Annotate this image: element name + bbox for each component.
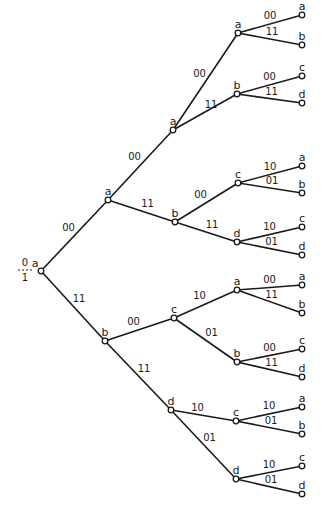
edge-label: 10 xyxy=(263,221,276,232)
tree-edge xyxy=(108,130,173,200)
tree-node xyxy=(105,197,111,203)
state-label: d xyxy=(234,227,241,240)
code-tree-diagram: 0011001100110011001110011001001100111001… xyxy=(0,0,324,526)
tree-node xyxy=(234,359,240,365)
state-label: b xyxy=(299,298,306,311)
tree-node xyxy=(299,346,305,352)
tree-node xyxy=(299,463,305,469)
tree-node xyxy=(299,190,305,196)
edge-label: 10 xyxy=(193,290,206,301)
state-label: d xyxy=(299,88,306,101)
edge-label: 11 xyxy=(265,357,278,368)
state-label: a xyxy=(299,270,306,283)
state-label: b xyxy=(234,79,241,92)
edge-label: 00 xyxy=(62,222,75,233)
edge-label: 11 xyxy=(73,293,86,304)
state-label: b xyxy=(299,178,306,191)
state-label: c xyxy=(233,406,239,419)
tree-node xyxy=(234,239,240,245)
state-label: c xyxy=(299,212,305,225)
tree-node xyxy=(299,100,305,106)
state-label: c xyxy=(299,61,305,74)
state-label: a xyxy=(235,18,242,31)
edge-label: 01 xyxy=(203,432,216,443)
state-label: a xyxy=(299,392,306,405)
edge-label: 01 xyxy=(205,327,218,338)
tree-node xyxy=(233,476,239,482)
edge-label: 00 xyxy=(263,274,276,285)
edge-label: 01 xyxy=(265,474,278,485)
tree-node xyxy=(299,310,305,316)
state-label: d xyxy=(299,362,306,375)
edge-label: 00 xyxy=(263,71,276,82)
edge-label: 11 xyxy=(205,99,218,110)
state-label: a xyxy=(299,0,306,13)
edge-label: 00 xyxy=(263,342,276,353)
tree-node xyxy=(299,282,305,288)
state-label: a xyxy=(234,275,241,288)
state-label: d xyxy=(168,395,175,408)
edge-label: 01 xyxy=(265,415,278,426)
tree-node xyxy=(299,163,305,169)
edge-label: 00 xyxy=(264,10,277,21)
tree-node xyxy=(171,315,177,321)
tree-node xyxy=(235,180,241,186)
state-label: a xyxy=(299,151,306,164)
fraction-numerator: 0 xyxy=(22,257,28,268)
initial-state-fraction: 0 1 xyxy=(18,257,32,283)
edge-label: 00 xyxy=(194,189,207,200)
state-label: b xyxy=(102,326,109,339)
edge-label: 00 xyxy=(128,151,141,162)
tree-node xyxy=(168,407,174,413)
tree-edge xyxy=(174,318,237,362)
tree-node xyxy=(299,73,305,79)
edge-label: 10 xyxy=(263,400,276,411)
state-label: d xyxy=(299,240,306,253)
tree-node xyxy=(102,338,108,344)
state-label: b xyxy=(172,207,179,220)
tree-node xyxy=(299,252,305,258)
edge-label: 00 xyxy=(193,68,206,79)
state-label: a xyxy=(170,115,177,128)
tree-node xyxy=(234,91,240,97)
tree-node xyxy=(299,374,305,380)
tree-edge xyxy=(171,410,236,479)
state-label: a xyxy=(32,257,39,270)
tree-node xyxy=(235,30,241,36)
tree-edge xyxy=(105,341,171,410)
tree-edge xyxy=(41,200,108,271)
state-label: b xyxy=(234,347,241,360)
state-label: d xyxy=(299,479,306,492)
edge-label: 00 xyxy=(127,316,140,327)
state-label: d xyxy=(233,464,240,477)
tree-edges xyxy=(41,15,302,494)
state-label: c xyxy=(299,451,305,464)
edge-label: 10 xyxy=(264,161,277,172)
edge-label: 10 xyxy=(191,402,204,413)
tree-node xyxy=(233,418,239,424)
tree-edge xyxy=(173,33,238,130)
tree-node xyxy=(299,404,305,410)
tree-node xyxy=(172,219,178,225)
edge-label: 11 xyxy=(206,219,219,230)
state-label: c xyxy=(235,168,241,181)
edge-label: 10 xyxy=(263,459,276,470)
edge-label: 11 xyxy=(141,198,154,209)
tree-node xyxy=(299,224,305,230)
state-label: a xyxy=(105,185,112,198)
tree-node xyxy=(299,12,305,18)
edge-label: 11 xyxy=(265,86,278,97)
tree-node xyxy=(299,491,305,497)
state-label: c xyxy=(299,334,305,347)
state-label: c xyxy=(171,303,177,316)
tree-node xyxy=(234,287,240,293)
tree-node xyxy=(38,268,44,274)
edge-label: 01 xyxy=(266,175,279,186)
state-label: b xyxy=(299,30,306,43)
edge-label: 11 xyxy=(138,363,151,374)
tree-node xyxy=(299,431,305,437)
edge-label: 01 xyxy=(265,236,278,247)
state-label: b xyxy=(299,419,306,432)
tree-node xyxy=(170,127,176,133)
edge-label: 11 xyxy=(265,289,278,300)
